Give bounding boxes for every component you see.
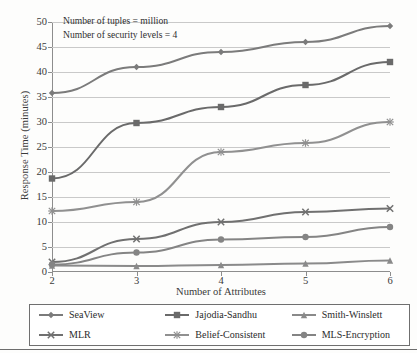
asterisk-marker-icon [48, 207, 56, 215]
y-tick-label: 30 [37, 116, 48, 127]
circle-marker-icon [218, 236, 224, 242]
series-smith-winslett [49, 257, 393, 269]
legend-item-jajodia-sandhu[interactable]: Jajodia-Sandhu [156, 309, 282, 321]
triangle-marker-icon [291, 309, 317, 321]
asterisk-marker-icon [302, 139, 310, 147]
x-tick-mark [390, 272, 391, 276]
x-tick-mark [221, 272, 222, 276]
series-layer [52, 22, 390, 272]
square-marker-icon [302, 82, 308, 88]
x-tick-label: 6 [387, 275, 392, 286]
asterisk-marker-icon [174, 331, 182, 339]
square-marker-icon [387, 59, 393, 65]
square-marker-icon [218, 104, 224, 110]
x-marker-icon [38, 329, 64, 341]
diamond-marker-icon [48, 312, 54, 318]
asterisk-marker-icon [217, 148, 225, 156]
asterisk-marker-icon [133, 198, 141, 206]
legend-label: Jajodia-Sandhu [195, 310, 257, 320]
y-tick-label: 40 [37, 66, 48, 77]
legend-label: SeaView [69, 310, 105, 320]
x-tick-label: 5 [303, 275, 308, 286]
circle-marker-icon [49, 261, 55, 267]
legend-item-mlr[interactable]: MLR [30, 329, 156, 341]
circle-marker-icon [133, 249, 139, 255]
asterisk-marker-icon [386, 118, 394, 126]
x-axis-title: Number of Attributes [52, 286, 390, 297]
y-axis-title: Response Time (minutes) [19, 46, 30, 246]
square-marker-icon [133, 120, 139, 126]
asterisk-marker-icon [164, 329, 190, 341]
y-tick-label: 45 [37, 41, 48, 52]
y-tick-label: 0 [42, 266, 47, 277]
x-tick-label: 2 [49, 275, 54, 286]
page-divider-rule [0, 349, 417, 350]
diamond-marker-icon [302, 39, 308, 45]
diamond-marker-icon [218, 49, 224, 55]
x-tick-mark [306, 272, 307, 276]
square-marker-icon [174, 312, 180, 318]
diamond-marker-icon [49, 90, 55, 96]
circle-marker-icon [387, 224, 393, 230]
y-tick-label: 35 [37, 91, 48, 102]
y-tick-label: 50 [37, 16, 48, 27]
x-tick-mark [137, 272, 138, 276]
square-marker-icon [49, 175, 55, 181]
y-tick-label: 25 [37, 141, 48, 152]
circle-marker-icon [300, 332, 306, 338]
square-marker-icon [164, 309, 190, 321]
x-tick-mark [52, 272, 53, 276]
legend-label: MLS-Encryption [322, 330, 390, 340]
y-tick-label: 10 [37, 216, 48, 227]
series-mls-encryption [49, 224, 393, 268]
annotation-tuples: Number of tuples = million [63, 14, 177, 28]
diamond-marker-icon [387, 23, 393, 29]
legend-item-seaview[interactable]: SeaView [30, 309, 156, 321]
legend-label: Smith-Winslett [322, 310, 383, 320]
chart-legend: SeaViewJajodia-SandhuSmith-WinslettMLRBe… [29, 304, 410, 346]
circle-marker-icon [302, 234, 308, 240]
circle-marker-icon [291, 329, 317, 341]
plot-area: 05101520253035404550 23456 [52, 22, 390, 272]
chart-figure: Response Time (minutes) 0510152025303540… [0, 0, 417, 353]
legend-label: Belief-Consistent [195, 330, 265, 340]
annotation-levels: Number of security levels = 4 [63, 28, 177, 42]
y-tick-label: 15 [37, 191, 48, 202]
chart-annotations: Number of tuples = million Number of sec… [63, 14, 177, 41]
x-tick-label: 3 [134, 275, 139, 286]
diamond-marker-icon [133, 64, 139, 70]
diamond-marker-icon [38, 309, 64, 321]
legend-item-belief-consistent[interactable]: Belief-Consistent [156, 329, 282, 341]
legend-item-mls-encryption[interactable]: MLS-Encryption [283, 329, 409, 341]
y-tick-label: 5 [42, 241, 47, 252]
legend-item-smith-winslett[interactable]: Smith-Winslett [283, 309, 409, 321]
x-tick-label: 4 [218, 275, 223, 286]
series-belief-consistent [48, 118, 394, 215]
legend-label: MLR [69, 330, 91, 340]
y-tick-label: 20 [37, 166, 48, 177]
